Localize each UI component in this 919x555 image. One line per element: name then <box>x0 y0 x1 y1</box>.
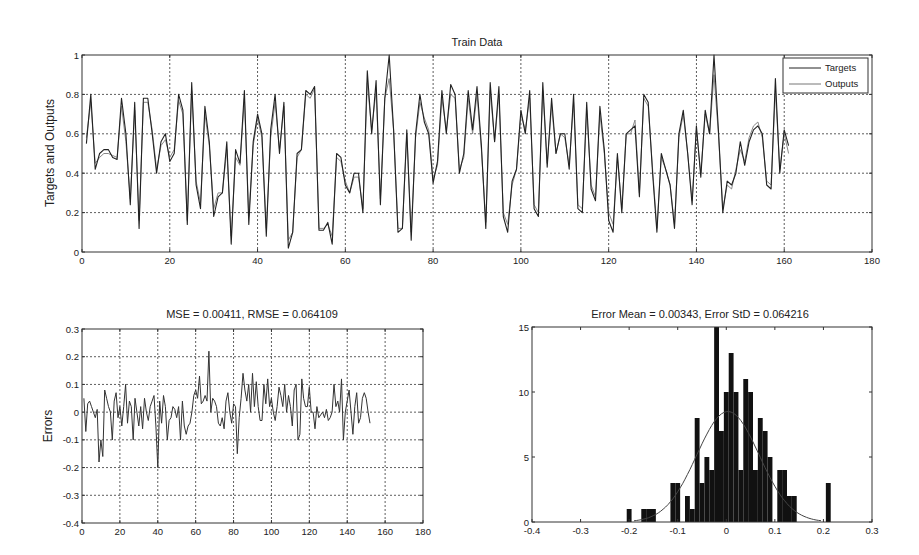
x-tick-label: 120 <box>301 526 317 537</box>
top-plot-title: Train Data <box>452 36 504 48</box>
histogram-bar <box>738 470 743 522</box>
x-tick-label: 140 <box>689 255 705 266</box>
histogram-bar <box>753 470 758 522</box>
y-tick-label: 0.6 <box>66 128 79 139</box>
x-tick-label: 160 <box>377 526 393 537</box>
x-tick-label: 0 <box>79 526 84 537</box>
errors-plot: MSE = 0.00411, RMSE = 0.064109 Errors 02… <box>41 308 431 537</box>
data-line <box>86 55 788 248</box>
histogram-bar <box>646 509 651 522</box>
top-plot-grid <box>82 55 872 252</box>
y-tick-label: -0.2 <box>63 462 79 473</box>
errors-plot-series <box>84 351 370 467</box>
histogram-bar <box>709 470 714 522</box>
x-tick-label: 180 <box>415 526 431 537</box>
top-plot-frame <box>82 55 872 252</box>
histogram-bar <box>758 418 763 522</box>
histogram-bar <box>714 327 719 522</box>
histogram-bar <box>729 353 734 522</box>
errors-plot-frame <box>82 329 423 523</box>
legend-targets-label: Targets <box>825 62 856 73</box>
x-tick-label: 80 <box>428 255 439 266</box>
histogram-bar <box>787 496 792 522</box>
histogram-bars <box>627 327 831 522</box>
errors-plot-ylabel: Errors <box>41 410 55 443</box>
x-tick-label: 40 <box>152 526 163 537</box>
histogram-bar <box>782 470 787 522</box>
x-tick-label: 180 <box>864 255 880 266</box>
x-tick-label: 100 <box>513 255 529 266</box>
histogram-bar <box>670 483 675 522</box>
y-tick-label: 0 <box>74 247 79 258</box>
x-tick-label: 0 <box>724 525 729 536</box>
y-tick-label: 0 <box>74 407 79 418</box>
figure-canvas: Train Data Targets and Outputs 020406080… <box>0 0 919 555</box>
x-tick-label: 0.2 <box>817 525 830 536</box>
top-plot-ylabel: Targets and Outputs <box>43 99 57 207</box>
x-tick-label: 0 <box>79 255 84 266</box>
top-plot-series <box>86 55 788 248</box>
top-plot-yticks: 00.20.40.60.81 <box>66 50 872 258</box>
histogram-bar <box>695 418 700 522</box>
errors-plot-grid <box>82 329 423 523</box>
top-plot: Train Data Targets and Outputs 020406080… <box>43 36 880 266</box>
y-tick-label: 0.4 <box>66 168 79 179</box>
data-line <box>84 351 370 467</box>
y-tick-label: 0.3 <box>66 324 79 335</box>
histogram-bar <box>641 509 646 522</box>
y-tick-label: 0 <box>524 517 529 528</box>
histogram-bar <box>685 496 690 522</box>
histogram-bar <box>734 392 739 522</box>
x-tick-label: 100 <box>264 526 280 537</box>
y-tick-label: -0.3 <box>63 490 79 501</box>
x-tick-label: 120 <box>601 255 617 266</box>
histogram-bar <box>763 431 768 522</box>
x-tick-label: 40 <box>252 255 263 266</box>
y-tick-label: 0.2 <box>66 351 79 362</box>
x-tick-label: 20 <box>164 255 175 266</box>
legend: Targets Outputs <box>783 58 868 93</box>
x-tick-label: 0.3 <box>865 525 878 536</box>
top-plot-xticks: 020406080100120140160180 <box>79 55 880 266</box>
legend-outputs-label: Outputs <box>825 78 859 89</box>
y-tick-label: 0.1 <box>66 379 79 390</box>
y-tick-label: 5 <box>524 452 529 463</box>
errors-plot-yticks: -0.4-0.3-0.2-0.100.10.20.3 <box>63 324 423 529</box>
x-tick-label: -0.2 <box>621 525 637 536</box>
y-tick-label: 0.8 <box>66 89 79 100</box>
histogram-plot-title: Error Mean = 0.00343, Error StD = 0.0642… <box>591 308 809 320</box>
y-tick-label: 1 <box>74 50 79 61</box>
y-tick-label: -0.1 <box>63 434 79 445</box>
x-tick-label: 140 <box>339 526 355 537</box>
x-tick-label: 60 <box>190 526 201 537</box>
x-tick-label: 80 <box>228 526 239 537</box>
histogram-bar <box>826 483 831 522</box>
y-tick-label: -0.4 <box>63 518 79 529</box>
errors-plot-xticks: 020406080100120140160180 <box>79 329 431 537</box>
x-tick-label: -0.1 <box>670 525 686 536</box>
histogram-bar <box>748 392 753 522</box>
y-tick-label: 0.2 <box>66 207 79 218</box>
y-tick-label: 15 <box>518 322 529 333</box>
errors-plot-title: MSE = 0.00411, RMSE = 0.064109 <box>166 308 338 320</box>
histogram-plot: Error Mean = 0.00343, Error StD = 0.0642… <box>518 308 878 536</box>
histogram-bar <box>719 431 724 522</box>
histogram-bar <box>704 457 709 522</box>
histogram-bar <box>743 379 748 522</box>
histogram-bar <box>768 457 773 522</box>
x-tick-label: 0.1 <box>768 525 781 536</box>
x-tick-label: 60 <box>340 255 351 266</box>
x-tick-label: 20 <box>115 526 126 537</box>
histogram-bar <box>690 509 695 522</box>
histogram-bar <box>700 483 705 522</box>
x-tick-label: -0.3 <box>572 525 588 536</box>
y-tick-label: 10 <box>518 387 529 398</box>
x-tick-label: 160 <box>776 255 792 266</box>
